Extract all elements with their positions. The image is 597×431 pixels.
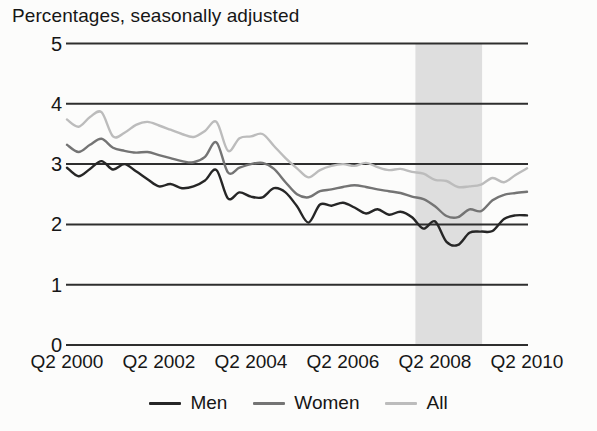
men-line-swatch bbox=[149, 402, 181, 405]
women-line-swatch bbox=[253, 402, 285, 405]
y-axis-tick-label: 5 bbox=[30, 31, 62, 57]
y-axis-tick-label: 1 bbox=[30, 272, 62, 298]
legend-item-women: Women bbox=[253, 392, 359, 414]
x-axis-tick-label: Q2 2008 bbox=[399, 351, 472, 373]
x-axis-tick-label: Q2 2004 bbox=[215, 351, 288, 373]
legend-label-men: Men bbox=[190, 392, 227, 414]
legend-item-men: Men bbox=[149, 392, 227, 414]
legend-item-all: All bbox=[385, 392, 447, 414]
x-axis-tick-label: Q2 2002 bbox=[123, 351, 196, 373]
x-axis-tick-label: Q2 2000 bbox=[31, 351, 104, 373]
x-axis-tick-label: Q2 2006 bbox=[307, 351, 380, 373]
all-line-swatch bbox=[385, 402, 417, 405]
legend: Men Women All bbox=[0, 392, 597, 414]
y-axis-tick-label: 2 bbox=[30, 211, 62, 237]
y-axis-tick-label: 4 bbox=[30, 91, 62, 117]
y-axis-tick-label: 3 bbox=[30, 151, 62, 177]
x-axis-tick-label: Q2 2010 bbox=[491, 351, 564, 373]
legend-label-women: Women bbox=[294, 392, 359, 414]
legend-label-all: All bbox=[426, 392, 447, 414]
line-chart: Percentages, seasonally adjusted 5 4 3 2… bbox=[0, 0, 597, 431]
